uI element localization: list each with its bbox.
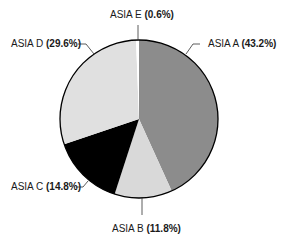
label-asia-d-pct: (29.6%)	[46, 38, 81, 49]
label-asia-a: ASIA A (43.2%)	[208, 38, 276, 50]
label-asia-d-name: ASIA D	[11, 38, 43, 49]
label-asia-e-pct: (0.6%)	[144, 9, 173, 20]
label-asia-b-pct: (11.8%)	[146, 223, 180, 234]
label-asia-c-pct: (14.8%)	[46, 181, 81, 192]
label-asia-e: ASIA E (0.6%)	[110, 9, 174, 21]
label-asia-d: ASIA D (29.6%)	[11, 38, 81, 50]
label-asia-a-pct: (43.2%)	[241, 38, 276, 49]
leader-line-a	[186, 44, 200, 54]
label-asia-c-name: ASIA C	[11, 181, 43, 192]
pie-slices	[60, 40, 218, 198]
label-asia-a-name: ASIA A	[208, 38, 239, 49]
label-asia-b: ASIA B (11.8%)	[112, 223, 181, 235]
label-asia-b-name: ASIA B	[112, 223, 144, 234]
label-asia-e-name: ASIA E	[110, 9, 142, 20]
label-asia-c: ASIA C (14.8%)	[11, 181, 81, 193]
pie-chart	[0, 0, 281, 242]
